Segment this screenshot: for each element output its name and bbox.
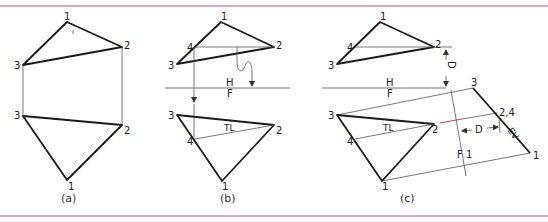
point-label: 1	[533, 150, 539, 161]
distance-label: D	[446, 61, 457, 69]
point-label: 1	[68, 181, 74, 192]
point-label: 4	[347, 136, 353, 147]
edge-view-line	[473, 88, 530, 153]
point-label: 1	[382, 181, 388, 192]
top-view-triangle	[23, 22, 122, 65]
point-label: 3	[168, 60, 174, 71]
point-label: 1	[222, 181, 228, 192]
point-label: 2	[276, 40, 282, 51]
front-view-triangle	[23, 116, 122, 180]
panel-caption: (c)	[400, 192, 415, 205]
point-label: 3	[328, 60, 334, 71]
panel-caption: (a)	[61, 192, 76, 205]
point-label: 4	[187, 136, 193, 147]
aux-fold-line	[451, 90, 466, 176]
fold-label-lower: F	[387, 88, 393, 99]
point-label: 2	[124, 125, 130, 136]
point-label: 4	[347, 42, 353, 53]
point-label: 1	[380, 11, 386, 22]
point-label: 1	[221, 11, 227, 22]
dimension-arrow-left	[462, 130, 472, 131]
point-label: 3	[168, 110, 174, 121]
point-label: 3	[14, 110, 20, 121]
panel-caption: (b)	[220, 192, 236, 205]
fold-label-lower: F	[227, 88, 233, 99]
fold-label-upper: H	[386, 77, 394, 88]
projection-line-2-accent	[440, 119, 462, 123]
true-length-label: TL	[382, 123, 394, 133]
aux-fold-label-right: 1	[466, 149, 472, 160]
point-label: 2,4	[499, 107, 515, 118]
descriptive-geometry-figure: 1 2 3 3 2 1 (a) 1 2 3 4 H F 3 2 4 1 TL (…	[0, 0, 548, 222]
point-label: 4	[187, 42, 193, 53]
point-label: 3	[471, 77, 477, 88]
aux-fold-label-left: F	[457, 149, 463, 160]
point-label: 1	[64, 11, 70, 22]
distance-label: D	[475, 124, 483, 135]
point-label: 2	[432, 124, 438, 135]
dimension-arrow-right	[487, 127, 498, 128]
panel-b: 1 2 3 4 H F 3 2 4 1 TL (b)	[165, 11, 290, 205]
fold-label-upper: H	[226, 77, 234, 88]
point-label: 2	[124, 40, 130, 51]
point-label: 3	[14, 60, 20, 71]
point-label: 2	[276, 125, 282, 136]
projection-line-2	[462, 113, 497, 119]
panel-c: D H F F 1 D EV 1 2 3 4 3 2 4 1 TL 3 2,4 …	[322, 11, 539, 205]
true-length-label: TL	[223, 123, 235, 133]
panel-a: 1 2 3 3 2 1 (a)	[14, 11, 130, 205]
point-label: 3	[328, 110, 334, 121]
point-label: 2	[435, 39, 441, 50]
